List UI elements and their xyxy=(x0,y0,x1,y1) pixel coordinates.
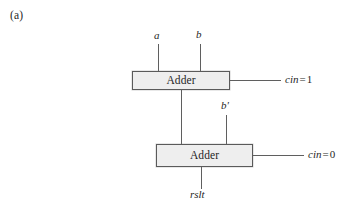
wire-cin-bottom xyxy=(253,155,304,156)
carry-in-equals-bottom: = xyxy=(321,148,329,160)
carry-in-label-top: cin=1 xyxy=(285,73,312,86)
carry-in-symbol-top: cin xyxy=(285,73,298,85)
adder-block-bottom: Adder xyxy=(156,144,253,167)
carry-in-equals-top: = xyxy=(298,73,306,85)
adder-block-bottom-label: Adder xyxy=(190,149,219,162)
signal-label-b: b xyxy=(196,28,202,41)
wire-input-b xyxy=(200,44,201,72)
carry-in-value-top: 1 xyxy=(307,73,313,85)
wire-input-b-prime xyxy=(226,115,227,145)
wire-input-a xyxy=(158,44,159,72)
wire-cin-top xyxy=(230,80,281,81)
wire-output-rslt xyxy=(201,167,202,189)
adder-block-diagram: (a) a b Adder cin=1 b' Adder cin=0 rslt xyxy=(0,0,359,208)
adder-block-top: Adder xyxy=(132,71,230,90)
wire-top-adder-to-bottom-adder xyxy=(181,89,182,145)
adder-block-top-label: Adder xyxy=(166,74,195,87)
carry-in-value-bottom: 0 xyxy=(330,148,336,160)
signal-label-rslt: rslt xyxy=(190,188,205,201)
figure-part-label: (a) xyxy=(10,8,23,22)
signal-label-a: a xyxy=(154,29,160,42)
signal-label-b-prime: b' xyxy=(221,99,229,112)
carry-in-label-bottom: cin=0 xyxy=(308,148,335,161)
carry-in-symbol-bottom: cin xyxy=(308,148,321,160)
